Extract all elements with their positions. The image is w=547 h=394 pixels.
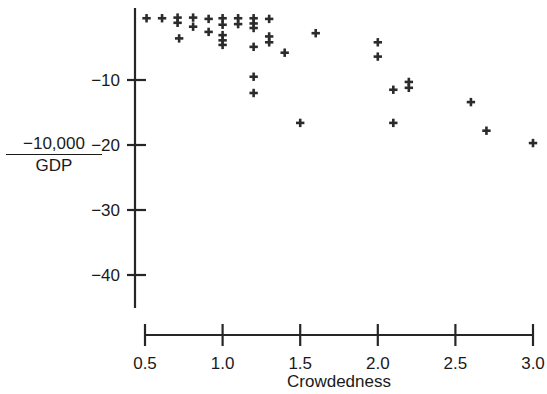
x-tick-label: 3.0 [521,354,545,373]
data-point [142,14,150,22]
data-point [249,43,257,51]
x-axis: 0.51.01.52.02.53.0 [133,324,545,373]
data-point [173,19,181,27]
y-axis-title-numerator: −10,000 [6,134,102,155]
data-point [175,34,183,42]
data-point [389,119,397,127]
data-point-series [142,13,537,147]
data-point [204,15,212,23]
y-axis-title: −10,000 GDP [6,134,102,175]
plot-canvas: −10−20−30−40 0.51.01.52.02.53.0 Crowdedn… [0,0,547,394]
data-point [249,89,257,97]
data-point [204,28,212,36]
x-axis-title: Crowdedness [287,372,391,391]
data-point [249,24,257,32]
scatter-plot-figure: −10−20−30−40 0.51.01.52.02.53.0 Crowdedn… [0,0,547,394]
data-point [374,52,382,60]
data-point [249,73,257,81]
x-tick-labels: 0.51.01.52.02.53.0 [133,354,545,373]
y-axis-title-denominator: GDP [6,155,102,175]
y-tick-marks [127,80,146,275]
y-tick-label: −40 [91,266,120,285]
x-tick-label: 2.5 [444,354,468,373]
data-point [265,38,273,46]
data-point [296,119,304,127]
data-point [158,14,166,22]
x-tick-label: 0.5 [133,354,157,373]
data-point [234,20,242,28]
data-point [189,23,197,31]
data-point [374,38,382,46]
data-point [189,13,197,21]
data-point [482,127,490,135]
data-point [405,84,413,92]
data-point [280,49,288,57]
data-point [265,15,273,23]
data-point [218,21,226,29]
data-point [218,41,226,49]
data-point [529,139,537,147]
y-tick-labels: −10−20−30−40 [91,71,120,285]
data-point [467,98,475,106]
x-tick-label: 1.5 [288,354,312,373]
data-point [312,29,320,37]
data-point [389,86,397,94]
y-tick-label: −10 [91,71,120,90]
y-tick-label: −30 [91,201,120,220]
x-tick-label: 1.0 [211,354,235,373]
x-tick-label: 2.0 [366,354,390,373]
